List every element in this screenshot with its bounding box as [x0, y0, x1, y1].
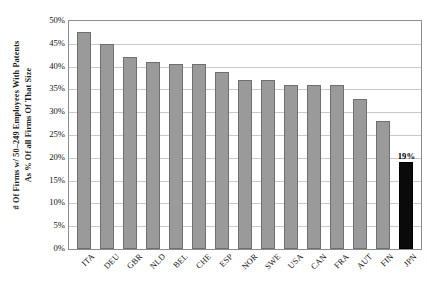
y-axis-tick-label: 50%	[38, 15, 65, 25]
y-axis-tick-label: 20%	[38, 152, 65, 162]
y-axis-title-line-2: As % Of all Firms Of That Size	[22, 41, 34, 210]
bar-slot	[372, 21, 395, 249]
bar-slot	[118, 21, 141, 249]
bar-nor[interactable]	[238, 80, 252, 249]
bar-fin[interactable]	[376, 121, 390, 249]
y-axis-tick-label: 30%	[38, 106, 65, 116]
bar-slot	[210, 21, 233, 249]
bar-value-label: 19%	[398, 151, 415, 161]
x-tick-slot: FRA	[325, 250, 348, 301]
x-tick-slot: AUT	[348, 250, 371, 301]
x-tick-slot: CHE	[186, 250, 209, 301]
bar-bel[interactable]	[169, 64, 183, 249]
y-axis-tick-label: 40%	[38, 61, 65, 71]
y-axis-tick-label: 35%	[38, 83, 65, 93]
bar-swe[interactable]	[261, 80, 275, 249]
bar-slot	[326, 21, 349, 249]
x-tick-slot: NOR	[232, 250, 255, 301]
x-tick-slot: FIN	[371, 250, 394, 301]
x-tick-slot: USA	[279, 250, 302, 301]
bar-esp[interactable]	[215, 72, 229, 249]
y-axis-tick-label: 45%	[38, 38, 65, 48]
y-axis-tick-label: 25%	[38, 129, 65, 139]
bar-che[interactable]	[192, 64, 206, 249]
x-tick-slot: CAN	[302, 250, 325, 301]
bar-slot	[95, 21, 118, 249]
x-tick-slot: ESP	[209, 250, 232, 301]
y-axis-tick-label: 10%	[38, 197, 65, 207]
y-axis-tick-labels: 0%5%10%15%20%25%30%35%40%45%50%	[38, 0, 65, 301]
bar-slot	[303, 21, 326, 249]
x-tick-slot: GBR	[117, 250, 140, 301]
x-tick-slot: NLD	[140, 250, 163, 301]
bar-fra[interactable]	[330, 85, 344, 249]
bar-slot	[349, 21, 372, 249]
x-tick-slot: ITA	[71, 250, 94, 301]
x-tick-slot: DEU	[94, 250, 117, 301]
bar-slot	[164, 21, 187, 249]
y-axis-title-line-1: # Of Firms w/ 50–249 Employees With Pate…	[11, 41, 23, 210]
bar-jpn[interactable]: 19%	[399, 162, 413, 249]
bar-ita[interactable]	[77, 32, 91, 249]
x-tick-slot: JPN	[394, 250, 417, 301]
plot-area: 19%	[68, 20, 422, 250]
y-axis-tick-label: 0%	[38, 243, 65, 253]
bar-slot	[280, 21, 303, 249]
bar-slot	[72, 21, 95, 249]
bar-nld[interactable]	[146, 62, 160, 249]
bar-aut[interactable]	[353, 99, 367, 249]
bar-series: 19%	[69, 21, 421, 249]
y-axis-tick-label: 15%	[38, 175, 65, 185]
bar-slot	[187, 21, 210, 249]
bar-gbr[interactable]	[123, 57, 137, 249]
bar-chart-figure: # Of Firms w/ 50–249 Employees With Pate…	[0, 0, 427, 301]
x-tick-slot: BEL	[163, 250, 186, 301]
y-axis-tick-label: 5%	[38, 220, 65, 230]
bar-usa[interactable]	[284, 85, 298, 249]
bar-slot	[257, 21, 280, 249]
bar-slot	[141, 21, 164, 249]
x-axis-tick-labels: ITADEUGBRNLDBELCHEESPNORSWEUSACANFRAAUTF…	[68, 250, 420, 301]
x-tick-slot: SWE	[256, 250, 279, 301]
bar-slot: 19%	[395, 21, 418, 249]
bar-can[interactable]	[307, 85, 321, 249]
bar-deu[interactable]	[100, 44, 114, 249]
bar-slot	[233, 21, 256, 249]
x-axis-tick-label-jpn: JPN	[402, 252, 419, 269]
